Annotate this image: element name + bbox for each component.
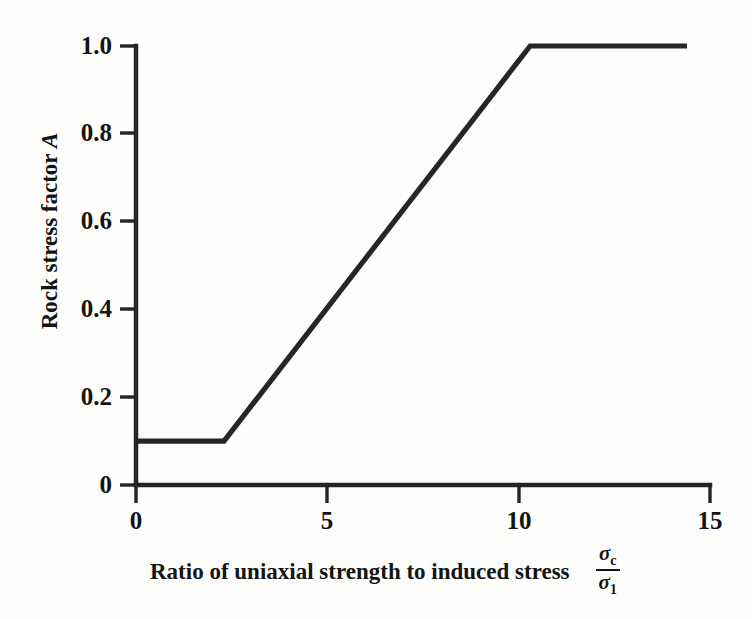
y-tick-label-0-8: 0.8 bbox=[20, 120, 112, 145]
y-axis-title-text: Rock stress factor bbox=[37, 154, 62, 329]
x-tick-label-5: 5 bbox=[297, 508, 357, 533]
sigma-c-subscript: c bbox=[610, 553, 616, 568]
sigma-c-symbol: σ bbox=[599, 541, 610, 565]
chart-figure: 1.0 0.8 0.6 0.4 0.2 0 0 5 10 15 Rock str… bbox=[0, 0, 752, 619]
x-tick-label-10: 10 bbox=[489, 508, 549, 533]
fraction-numerator: σc bbox=[596, 543, 619, 569]
x-axis-title-fraction: σc σ1 bbox=[596, 543, 620, 598]
sigma-1-symbol: σ bbox=[599, 570, 610, 594]
y-tick-label-0-2: 0.2 bbox=[20, 384, 112, 409]
y-tick-label-0-6: 0.6 bbox=[20, 208, 112, 233]
x-axis-title: Ratio of uniaxial strength to induced st… bbox=[150, 545, 620, 600]
y-axis-title: Rock stress factor A bbox=[37, 31, 63, 431]
x-tick-marks bbox=[136, 485, 710, 503]
fraction-denominator: σ1 bbox=[596, 569, 620, 597]
y-axis-title-symbol: A bbox=[37, 133, 62, 148]
x-tick-label-0: 0 bbox=[106, 508, 166, 533]
y-tick-label-1-0: 1.0 bbox=[20, 33, 112, 58]
x-tick-label-15: 15 bbox=[680, 508, 740, 533]
y-tick-label-0-4: 0.4 bbox=[20, 296, 112, 321]
x-axis-title-text: Ratio of uniaxial strength to induced st… bbox=[150, 559, 570, 585]
y-tick-label-0: 0 bbox=[20, 472, 112, 497]
y-tick-marks bbox=[120, 46, 136, 485]
sigma-1-subscript: 1 bbox=[610, 583, 617, 598]
data-series-rock-stress-factor bbox=[136, 46, 687, 441]
